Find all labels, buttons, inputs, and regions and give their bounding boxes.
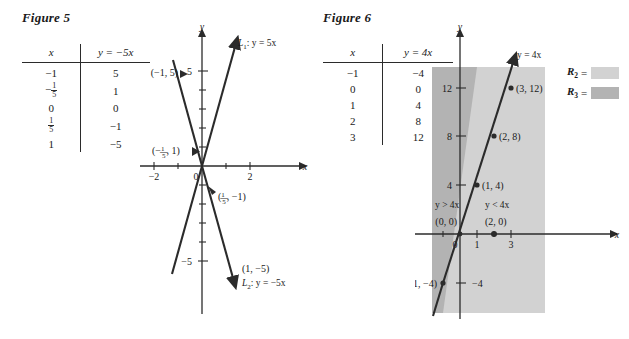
y-axis-label: y: [199, 21, 205, 32]
frac-den: 5: [162, 152, 166, 160]
figure-6-legend: R2 = R3 =: [567, 63, 619, 103]
data-point-2-8: [491, 133, 496, 138]
figure-5-title: Figure 5: [22, 10, 70, 26]
figure-5-svg: −2 0 2 5 −5 x y (−1, 5) (1, −5) (−1—5: [140, 14, 312, 324]
cell-x: 2: [323, 113, 383, 129]
figure-6-panel: Figure 6 x y = 4x −1 −4 0 0 1 4 2 8: [315, 0, 629, 339]
x-tick-label-3: 3: [509, 239, 514, 250]
legend-swatch-R3: [591, 87, 619, 99]
x-tick-label-2: 2: [248, 171, 253, 182]
cell-x: 0: [323, 81, 383, 97]
legend-row-R3: R3 =: [567, 83, 619, 103]
cell-x: 1: [323, 97, 383, 113]
legend-key-R3: R3: [567, 85, 578, 100]
legend-swatch-R2: [591, 67, 619, 79]
cell-x: −1: [22, 63, 81, 82]
y-tick-label-5: 5: [187, 66, 192, 77]
table-row: −1 5: [22, 63, 150, 82]
figure-6-plot: 12 8 4 −4 0 1 3 x y (3, 12) (2, 8) (1, 4…: [415, 14, 629, 324]
data-point-2-0: [491, 231, 497, 237]
table-row: 15 −1: [22, 117, 150, 136]
x-axis-label: x: [302, 161, 308, 172]
point-label-2-0: (2, 0): [485, 216, 507, 228]
point-label-2-8: (2, 8): [499, 131, 521, 143]
svg-text:(−1—5, 1): (−1—5, 1): [152, 145, 180, 161]
y-tick-label-minus5: −5: [181, 256, 192, 267]
x-tick-label-1: 1: [475, 239, 480, 250]
point-label-minus1-5: (−1, 5): [151, 67, 178, 79]
x-axis-label: x: [614, 229, 620, 240]
y-tick-label-4: 4: [447, 180, 452, 191]
figure-6-svg: 12 8 4 −4 0 1 3 x y (3, 12) (2, 8) (1, 4…: [415, 14, 629, 324]
line-label-y-equals-4x: y = 4x: [517, 50, 542, 60]
cell-x: −1: [323, 63, 383, 82]
table-row: −15 1: [22, 81, 150, 100]
legend-key-R2: R2: [567, 65, 578, 80]
table-header-row: x y = −5x: [22, 44, 150, 63]
table-row: 0 0: [22, 100, 150, 116]
region-label-y-greater-4x: y > 4x: [435, 200, 460, 210]
y-tick-label-minus4: −4: [472, 278, 483, 289]
cell-x: 1: [22, 136, 81, 152]
region-label-y-less-4x: y < 4x: [485, 200, 510, 210]
cell-x: −15: [22, 81, 81, 100]
frac-suffix: , −1): [227, 191, 246, 203]
cell-x: 0: [22, 100, 81, 116]
point-label-0-0: (0, 0): [435, 216, 457, 228]
line-label-L1: L1: y = 5x: [237, 38, 276, 51]
data-point-1-4: [474, 182, 479, 187]
svg-text:(1—5, −1): (1—5, −1): [218, 191, 246, 207]
fraction-one-fifth: 15: [51, 82, 57, 99]
data-point-3-12: [508, 85, 513, 90]
fraction-one-fifth: 15: [48, 117, 54, 134]
line-L1: [202, 47, 235, 166]
frac-suffix: , 1): [166, 145, 179, 157]
cell-x: 3: [323, 129, 383, 145]
point-label-minus1-minus4: (−1, −4): [415, 278, 437, 290]
y-axis-label: y: [457, 21, 463, 32]
line-label-L2: L2: y = −5x: [241, 278, 286, 291]
point-label-3-12: (3, 12): [516, 83, 543, 95]
figure-5-plot: −2 0 2 5 −5 x y (−1, 5) (1, −5) (−1—5: [140, 14, 312, 324]
point-label-one-fifth-minus1: (1—5, −1): [208, 186, 246, 206]
point-label-minus-one-fifth-1: (−1—5, 1): [152, 145, 200, 161]
x-tick-label-minus2: −2: [149, 171, 160, 182]
data-point-minus1-minus4: [440, 280, 445, 285]
cell-x: 15: [22, 117, 81, 136]
figure-6-title: Figure 6: [323, 10, 371, 26]
legend-equals-R3: =: [581, 87, 587, 99]
column-header-x: x: [323, 44, 383, 63]
legend-equals-R2: =: [581, 67, 587, 79]
y-tick-label-12: 12: [442, 83, 452, 94]
data-point-0-0: [458, 232, 463, 237]
figure-5-value-table: x y = −5x −1 5 −15 1 0 0 15 −1 1: [22, 44, 150, 152]
y-tick-label-8: 8: [447, 131, 452, 142]
figure-5-panel: Figure 5 x y = −5x −1 5 −15 1 0 0 15 −: [0, 0, 315, 339]
point-label-1-4: (1, 4): [482, 180, 504, 192]
frac-den: 5: [222, 198, 226, 206]
legend-row-R2: R2 =: [567, 63, 619, 83]
table-row: 1 −5: [22, 136, 150, 152]
column-header-x: x: [22, 44, 81, 63]
point-label-1-minus5: (1, −5): [242, 263, 269, 275]
